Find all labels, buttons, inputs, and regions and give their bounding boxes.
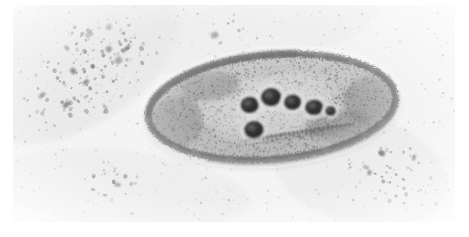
micrograph-artwork: [13, 5, 455, 222]
plate-vignette: [13, 5, 455, 222]
micrograph-plate: [13, 5, 455, 222]
micrograph-canvas: [0, 0, 469, 237]
